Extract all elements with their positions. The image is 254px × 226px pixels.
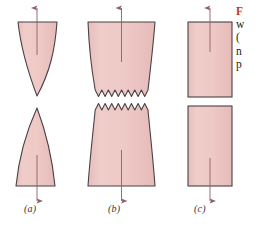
panel-a-bottom-piece — [16, 108, 55, 186]
panel-label-b: (b) — [108, 203, 120, 214]
panel-b-group — [88, 8, 155, 201]
fracture-figure: (a) (b) (c) F w ( n p — [0, 0, 254, 226]
caption-line-2: ( — [236, 31, 254, 44]
panel-label-c: (c) — [194, 203, 206, 214]
caption-line-1: w — [236, 18, 254, 31]
panel-a-top-piece — [18, 22, 57, 96]
caption-line-0: F — [236, 5, 254, 18]
fracture-diagram-canvas — [0, 0, 254, 226]
panel-c-group — [188, 8, 232, 201]
caption-line-3: n — [236, 45, 254, 58]
caption-line-4: p — [236, 58, 254, 71]
panel-label-a: (a) — [24, 203, 36, 214]
panel-a-group — [16, 8, 57, 201]
figure-caption: F w ( n p — [236, 5, 254, 71]
caption-lead-letter: F — [236, 5, 243, 17]
